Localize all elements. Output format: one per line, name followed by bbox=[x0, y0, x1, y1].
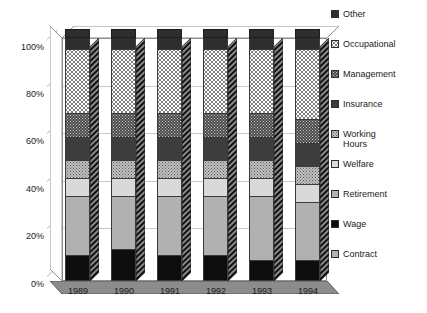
segment-management-1991 bbox=[158, 114, 181, 137]
bar-1992[interactable] bbox=[203, 38, 228, 281]
segment-working-hours-1991 bbox=[158, 161, 181, 179]
bar-front-1991 bbox=[157, 38, 182, 281]
legend-swatch-wage-icon bbox=[331, 220, 339, 228]
segment-other-1991 bbox=[158, 38, 181, 50]
segment-working-hours-1989 bbox=[66, 161, 89, 179]
legend-swatch-welfare-icon bbox=[331, 160, 339, 168]
segment-insurance-1989 bbox=[66, 138, 89, 161]
segment-insurance-1993 bbox=[250, 138, 273, 161]
legend-item-occupational[interactable]: Occupational bbox=[331, 39, 427, 69]
x-tick-1989: 1989 bbox=[62, 286, 94, 296]
segment-insurance-1994 bbox=[296, 144, 319, 167]
bar-cap-1991 bbox=[157, 29, 182, 38]
segment-welfare-1991 bbox=[158, 179, 181, 197]
bar-1989[interactable] bbox=[65, 38, 90, 281]
segment-wage-1994 bbox=[296, 261, 319, 281]
segment-occupational-1990 bbox=[112, 50, 135, 115]
legend-item-retirement[interactable]: Retirement bbox=[331, 189, 427, 219]
stacked-bar-chart: 100% 80% 60% 40% 20% 0% bbox=[0, 0, 427, 313]
segment-working-hours-1994 bbox=[296, 167, 319, 185]
bar-front-1989 bbox=[65, 38, 90, 281]
segment-welfare-1992 bbox=[204, 179, 227, 197]
bar-cap-1992 bbox=[203, 29, 228, 38]
bar-front-1994 bbox=[295, 38, 320, 281]
legend-swatch-other-icon bbox=[331, 10, 339, 18]
legend-label-working-hours: Working Hours bbox=[343, 129, 376, 149]
legend-label-wage: Wage bbox=[343, 219, 366, 229]
bar-1993[interactable] bbox=[249, 38, 274, 281]
legend-swatch-contract-icon bbox=[331, 250, 339, 258]
legend-label-management: Management bbox=[343, 69, 396, 79]
bar-side-1992 bbox=[228, 38, 237, 281]
segment-retirement-1994 bbox=[296, 203, 319, 262]
segment-wage-1989 bbox=[66, 256, 89, 282]
segment-working-hours-1993 bbox=[250, 161, 273, 179]
bar-side-1993 bbox=[274, 38, 283, 281]
segment-working-hours-1990 bbox=[112, 161, 135, 179]
bar-1990[interactable] bbox=[111, 38, 136, 281]
bar-side-1994 bbox=[320, 38, 329, 281]
bar-1991[interactable] bbox=[157, 38, 182, 281]
legend-swatch-insurance-icon bbox=[331, 100, 339, 108]
bar-cap-1994 bbox=[295, 29, 320, 38]
segment-management-1993 bbox=[250, 114, 273, 137]
bar-side-1990 bbox=[136, 38, 145, 281]
segment-management-1994 bbox=[296, 120, 319, 143]
legend-swatch-occupational-icon bbox=[331, 40, 339, 48]
legend-swatch-management-icon bbox=[331, 70, 339, 78]
segment-welfare-1990 bbox=[112, 179, 135, 197]
segment-working-hours-1992 bbox=[204, 161, 227, 179]
bar-front-1990 bbox=[111, 38, 136, 281]
segment-other-1992 bbox=[204, 38, 227, 50]
segment-wage-1992 bbox=[204, 256, 227, 282]
x-tick-1991: 1991 bbox=[154, 286, 186, 296]
segment-welfare-1989 bbox=[66, 179, 89, 197]
bar-1994[interactable] bbox=[295, 38, 320, 281]
segment-management-1990 bbox=[112, 114, 135, 137]
legend-swatch-retirement-icon bbox=[331, 190, 339, 198]
segment-insurance-1991 bbox=[158, 138, 181, 161]
segment-wage-1991 bbox=[158, 256, 181, 282]
bar-front-1992 bbox=[203, 38, 228, 281]
legend-label-occupational: Occupational bbox=[343, 39, 396, 49]
legend-label-insurance: Insurance bbox=[343, 99, 383, 109]
segment-occupational-1994 bbox=[296, 50, 319, 120]
legend-label-other: Other bbox=[343, 9, 366, 19]
legend-item-wage[interactable]: Wage bbox=[331, 219, 427, 249]
legend-label-retirement: Retirement bbox=[343, 189, 387, 199]
legend-item-welfare[interactable]: Welfare bbox=[331, 159, 427, 189]
legend-item-management[interactable]: Management bbox=[331, 69, 427, 99]
segment-other-1990 bbox=[112, 38, 135, 50]
segment-retirement-1993 bbox=[250, 197, 273, 262]
segment-retirement-1991 bbox=[158, 197, 181, 256]
bar-cap-1989 bbox=[65, 29, 90, 38]
segment-occupational-1992 bbox=[204, 50, 227, 115]
x-tick-1994: 1994 bbox=[292, 286, 324, 296]
segment-other-1994 bbox=[296, 38, 319, 50]
legend-item-working-hours[interactable]: Working Hours bbox=[331, 129, 427, 159]
segment-other-1993 bbox=[250, 38, 273, 50]
segment-retirement-1989 bbox=[66, 197, 89, 256]
segment-management-1992 bbox=[204, 114, 227, 137]
legend-label-welfare: Welfare bbox=[343, 159, 374, 169]
segment-occupational-1991 bbox=[158, 50, 181, 115]
legend-item-other[interactable]: Other bbox=[331, 9, 427, 39]
legend-label-contract: Contract bbox=[343, 249, 377, 259]
bar-side-1989 bbox=[90, 38, 99, 281]
bar-cap-1993 bbox=[249, 29, 274, 38]
x-axis: 1989 1990 1991 1992 1993 1994 bbox=[0, 286, 427, 302]
segment-welfare-1993 bbox=[250, 179, 273, 197]
segment-insurance-1990 bbox=[112, 138, 135, 161]
bar-front-1993 bbox=[249, 38, 274, 281]
segment-welfare-1994 bbox=[296, 185, 319, 203]
bar-cap-1990 bbox=[111, 29, 136, 38]
bar-side-1991 bbox=[182, 38, 191, 281]
segment-retirement-1992 bbox=[204, 197, 227, 256]
segment-occupational-1989 bbox=[66, 50, 89, 115]
legend-item-contract[interactable]: Contract bbox=[331, 249, 427, 279]
segment-retirement-1990 bbox=[112, 197, 135, 250]
segment-occupational-1993 bbox=[250, 50, 273, 115]
x-tick-1990: 1990 bbox=[108, 286, 140, 296]
x-tick-1993: 1993 bbox=[246, 286, 278, 296]
legend-item-insurance[interactable]: Insurance bbox=[331, 99, 427, 129]
